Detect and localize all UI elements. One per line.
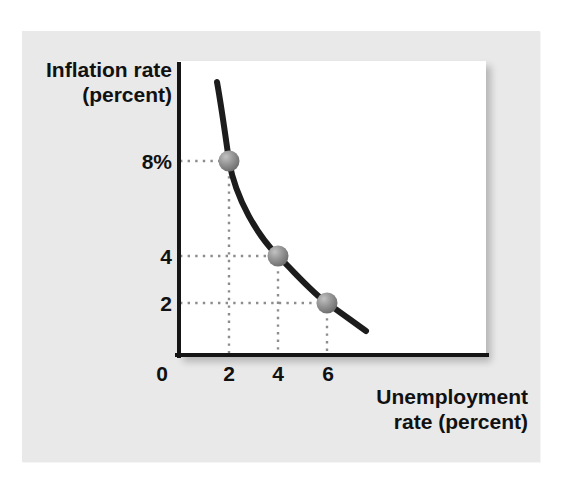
- x-axis-title-line-2: rate (percent): [286, 410, 528, 435]
- guide-lines: [180, 161, 327, 355]
- x-tick-label-2: 2: [223, 362, 235, 385]
- y-axis-title-line-1: Inflation rate: [24, 58, 172, 83]
- y-tick-label-8: 8%: [142, 150, 173, 173]
- x-axis-title: Unemployment rate (percent): [286, 385, 528, 435]
- data-markers: [219, 151, 338, 314]
- data-marker-a[interactable]: [219, 151, 240, 172]
- x-tick-label-6: 6: [322, 362, 334, 385]
- y-axis-title: Inflation rate (percent): [24, 58, 172, 108]
- x-tick-labels: 0 2 4 6: [156, 362, 334, 385]
- phillips-curve-figure: 8% 4 2 0 2 4 6 Inflation rate (percent) …: [0, 0, 563, 480]
- x-axis-title-line-1: Unemployment: [286, 385, 528, 410]
- data-marker-c[interactable]: [317, 293, 338, 314]
- x-tick-label-4: 4: [272, 362, 284, 385]
- y-tick-label-2: 2: [160, 292, 172, 315]
- phillips-curve-line: [217, 82, 366, 331]
- y-tick-labels: 8% 4 2: [142, 150, 173, 315]
- y-axis-title-line-2: (percent): [24, 83, 172, 108]
- y-tick-label-4: 4: [160, 245, 172, 268]
- data-marker-b[interactable]: [268, 246, 289, 267]
- x-tick-label-0: 0: [156, 362, 168, 385]
